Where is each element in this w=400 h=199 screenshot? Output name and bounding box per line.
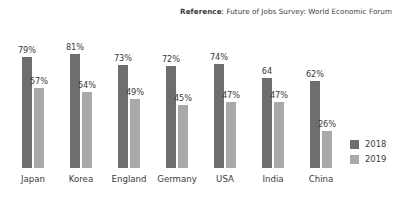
bar-value-label: 47% <box>222 91 240 99</box>
bar-rect <box>226 102 236 168</box>
bar-value-label: 73% <box>114 54 132 62</box>
legend-swatch-icon <box>350 155 359 164</box>
bar-rect <box>130 99 140 168</box>
bar-value-label: 64 <box>262 67 272 75</box>
bar-rect <box>118 65 128 168</box>
legend-item-2019[interactable]: 2019 <box>350 152 398 167</box>
chart-legend: 20182019 <box>350 137 398 167</box>
bar-rect <box>34 88 44 168</box>
bar-rect <box>178 105 188 168</box>
legend-swatch-icon <box>350 140 359 149</box>
bar-rect <box>274 102 284 168</box>
bar-value-label: 74% <box>210 53 228 61</box>
bar-rect <box>70 54 80 168</box>
bar-chart: Reference: Future of Jobs Survey: World … <box>0 0 400 199</box>
bar-rect <box>82 92 92 168</box>
bar-value-label: 79% <box>18 46 36 54</box>
category-label-korea: Korea <box>69 175 93 184</box>
bar-rect <box>322 131 332 168</box>
category-label-england: England <box>112 175 147 184</box>
bar-rect <box>166 66 176 168</box>
bar-value-label: 49% <box>126 88 144 96</box>
bar-value-label: 26% <box>318 120 336 128</box>
bar-value-label: 47% <box>270 91 288 99</box>
category-label-china: China <box>309 175 334 184</box>
bar-value-label: 62% <box>306 70 324 78</box>
category-label-usa: USA <box>216 175 234 184</box>
bar-rect <box>22 57 32 168</box>
plot-area: 79%57%81%54%73%49%72%45%74%47%6447%62%26… <box>0 0 400 168</box>
legend-label: 2019 <box>365 155 386 163</box>
bar-value-label: 81% <box>66 43 84 51</box>
bar-value-label: 72% <box>162 55 180 63</box>
legend-label: 2018 <box>365 140 386 148</box>
bar-rect <box>214 64 224 168</box>
bar-value-label: 45% <box>174 94 192 102</box>
legend-item-2018[interactable]: 2018 <box>350 137 398 152</box>
category-label-india: India <box>262 175 283 184</box>
bar-value-label: 57% <box>30 77 48 85</box>
category-label-japan: Japan <box>21 175 45 184</box>
bar-value-label: 54% <box>78 81 96 89</box>
category-label-germany: Germany <box>157 175 197 184</box>
